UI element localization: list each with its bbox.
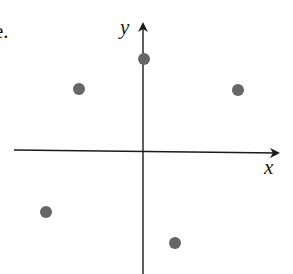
y-axis-label: y <box>120 17 129 38</box>
data-point <box>232 84 244 96</box>
data-point <box>73 83 85 95</box>
data-point <box>40 206 52 218</box>
coordinate-plane <box>0 0 293 274</box>
data-point <box>138 53 150 65</box>
x-axis <box>14 150 278 153</box>
data-point <box>169 237 181 249</box>
x-axis-label: x <box>264 157 273 178</box>
